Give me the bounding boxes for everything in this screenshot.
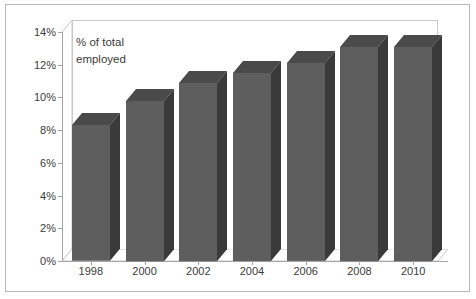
y-tick-label: 12% (8, 59, 56, 70)
y-tick-label: 0% (8, 256, 56, 267)
x-tick-label: 2006 (276, 266, 336, 277)
plot-area: 0%2%4%6%8%10%12%14% 19982000200220042006… (0, 0, 476, 299)
y-tick-mark (58, 32, 62, 33)
y-tick-mark (58, 228, 62, 229)
y-axis-line (62, 32, 63, 262)
y-tick-mark (58, 130, 62, 131)
y-tick-mark (58, 196, 62, 197)
x-tick-label: 2008 (329, 266, 389, 277)
bar-column (287, 51, 336, 262)
bar-column (126, 89, 175, 262)
chart-annotation-label: % of total employed (76, 34, 126, 67)
y-tick-label: 14% (8, 27, 56, 38)
y-tick-label: 10% (8, 92, 56, 103)
bar-column (394, 35, 443, 262)
chart-screenshot: 0%2%4%6%8%10%12%14% 19982000200220042006… (0, 0, 476, 299)
x-tick-label: 2002 (168, 266, 228, 277)
y-tick-label: 2% (8, 223, 56, 234)
bar-column (179, 71, 228, 262)
y-tick-label: 8% (8, 125, 56, 136)
x-tick-label: 2010 (383, 266, 443, 277)
y-tick-mark (58, 261, 62, 262)
bar-column (340, 35, 389, 262)
y-tick-mark (58, 65, 62, 66)
x-tick-label: 1998 (61, 266, 121, 277)
bar-column (72, 113, 121, 262)
y-tick-label: 4% (8, 190, 56, 201)
x-tick-label: 2000 (115, 266, 175, 277)
y-tick-label: 6% (8, 157, 56, 168)
plot-left-wall (62, 20, 72, 261)
x-tick-label: 2004 (222, 266, 282, 277)
bar-column (233, 61, 282, 262)
y-tick-mark (58, 97, 62, 98)
y-tick-mark (58, 163, 62, 164)
